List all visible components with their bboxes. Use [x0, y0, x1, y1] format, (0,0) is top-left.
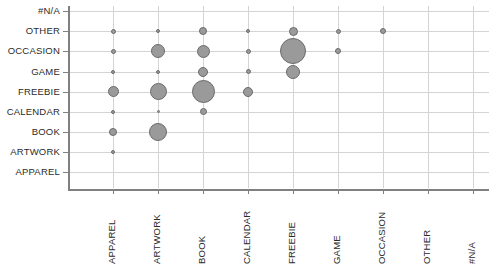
bubble-point[interactable] — [246, 49, 251, 54]
bubble-point[interactable] — [243, 87, 253, 97]
bubble-point[interactable] — [199, 27, 207, 35]
y-axis-label-calendar: CALENDAR — [7, 107, 60, 117]
bubble-point[interactable] — [109, 128, 117, 136]
y-axis-tick — [63, 112, 69, 113]
y-axis-tick — [63, 51, 69, 52]
x-axis-tick — [113, 189, 114, 194]
x-axis-tick — [293, 189, 294, 194]
bubble-point[interactable] — [111, 70, 115, 74]
x-axis-label-n-a: #N/A — [467, 242, 477, 264]
y-axis-label-book: BOOK — [32, 127, 60, 137]
bubble-point[interactable] — [156, 29, 160, 33]
bubble-point[interactable] — [198, 67, 208, 77]
bubble-point[interactable] — [197, 45, 210, 58]
y-axis-line — [68, 6, 70, 190]
gridline-horizontal — [69, 11, 489, 12]
gridline-vertical — [473, 6, 474, 188]
gridline-horizontal — [69, 172, 489, 173]
y-axis-label-game: GAME — [31, 67, 60, 77]
x-axis-tick — [383, 189, 384, 194]
bubble-point[interactable] — [200, 108, 207, 115]
bubble-point[interactable] — [150, 83, 167, 100]
x-axis-line — [68, 189, 489, 191]
bubble-point[interactable] — [246, 69, 251, 74]
gridline-vertical — [428, 6, 429, 188]
bubble-point[interactable] — [111, 29, 116, 34]
y-axis-tick — [63, 132, 69, 133]
x-axis-tick — [203, 189, 204, 194]
y-axis-label-artwork: ARTWORK — [10, 147, 60, 157]
x-axis-labels: APPARELARTWORKBOOKCALENDARFREEBIEGAMEOCC… — [0, 196, 494, 264]
bubble-point[interactable] — [192, 80, 215, 103]
y-axis-tick — [63, 172, 69, 173]
bubble-point[interactable] — [108, 86, 119, 97]
y-axis-label-apparel: APPAREL — [15, 167, 60, 177]
bubble-point[interactable] — [157, 110, 160, 113]
y-axis-tick — [63, 31, 69, 32]
x-axis-label-calendar: CALENDAR — [242, 211, 252, 264]
x-axis-label-freebie: FREEBIE — [287, 222, 297, 264]
gridline-vertical — [248, 6, 249, 188]
x-axis-tick — [248, 189, 249, 194]
x-axis-label-other: OTHER — [422, 230, 432, 264]
x-axis-label-apparel: APPAREL — [107, 219, 117, 264]
y-axis-label-freebie: FREEBIE — [18, 87, 60, 97]
x-axis-tick — [158, 189, 159, 194]
gridline-horizontal — [69, 31, 489, 32]
gridline-horizontal — [69, 72, 489, 73]
bubble-point[interactable] — [151, 44, 165, 58]
bubble-point[interactable] — [335, 48, 341, 54]
y-axis-tick — [63, 11, 69, 12]
gridline-horizontal — [69, 112, 489, 113]
bubble-point[interactable] — [111, 110, 115, 114]
y-axis-tick — [63, 72, 69, 73]
y-axis-label-n-a: #N/A — [38, 6, 60, 16]
x-axis-label-artwork: ARTWORK — [152, 214, 162, 264]
y-axis-label-occasion: OCCASION — [8, 46, 60, 56]
gridline-horizontal — [69, 132, 489, 133]
plot-area — [69, 6, 489, 188]
bubble-point[interactable] — [111, 150, 115, 154]
bubble-point[interactable] — [280, 38, 306, 64]
bubble-matrix-chart: APPARELARTWORKBOOKCALENDARFREEBIEGAMEOCC… — [0, 0, 494, 264]
y-axis-label-other: OTHER — [26, 26, 60, 36]
bubble-point[interactable] — [286, 65, 300, 79]
bubble-point[interactable] — [380, 28, 386, 34]
x-axis-tick — [428, 189, 429, 194]
bubble-point[interactable] — [289, 27, 298, 36]
gridline-horizontal — [69, 152, 489, 153]
y-axis-tick — [63, 92, 69, 93]
gridline-horizontal — [69, 92, 489, 93]
x-axis-label-game: GAME — [332, 235, 342, 264]
x-axis-tick — [473, 189, 474, 194]
bubble-point[interactable] — [149, 123, 167, 141]
x-axis-tick — [338, 189, 339, 194]
x-axis-label-occasion: OCCASION — [377, 212, 387, 264]
y-axis-tick — [63, 152, 69, 153]
x-axis-label-book: BOOK — [197, 236, 207, 264]
gridline-horizontal — [69, 51, 489, 52]
bubble-point[interactable] — [336, 29, 341, 34]
bubble-point[interactable] — [246, 29, 250, 33]
bubble-point[interactable] — [156, 70, 160, 74]
bubble-point[interactable] — [111, 49, 116, 54]
y-axis-labels: APPARELARTWORKBOOKCALENDARFREEBIEGAMEOCC… — [0, 0, 60, 200]
